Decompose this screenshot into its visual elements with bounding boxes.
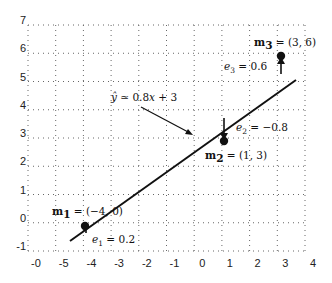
x-tick-label: -2 [142,257,152,269]
m1-label: m1 = (−4, 0) [52,205,123,220]
y-tick-label: 2 [20,155,26,167]
x-tick-label: -3 [114,257,124,269]
line-equation-label: ŷ ≃ 0.8x + 3 [110,91,177,103]
y-tick-label: -1 [16,240,26,252]
y-tick-label: 5 [20,71,26,83]
x-tick-label: 2 [255,257,261,269]
x-tick-label: -4 [87,257,97,269]
y-tick-label: 3 [20,127,26,139]
y-tick-label: 7 [20,14,26,26]
y-tick-label: 4 [20,99,26,111]
e2-label: e2 = −0.8 [236,121,288,136]
y-tick-label: 0 [20,212,26,224]
x-axis-ticks: -0-5-4-3-2-101234 [31,257,316,269]
data-point-m1 [81,222,89,230]
e1-label: e1 = 0.2 [92,233,135,248]
y-tick-label: 6 [20,42,26,54]
m3-label: m3 = (3, 6) [254,36,316,51]
x-tick-label: -1 [170,257,180,269]
data-point-m3 [277,52,285,60]
x-tick-label: 1 [227,257,233,269]
x-tick-label: 0 [199,257,205,269]
x-tick-label: 3 [282,257,288,269]
regression-chart: 76543210-1 -0-5-4-3-2-101234 ŷ ≃ 0.8x + … [0,0,332,283]
data-point-m2 [220,137,228,145]
y-tick-label: 1 [20,184,26,196]
x-tick-label: -5 [59,257,69,269]
e3-label: e3 = 0.6 [224,60,267,75]
m2-label: m2 = (1, 3) [205,149,267,164]
x-tick-label: -0 [31,257,41,269]
y-axis-ticks: 76543210-1 [16,14,26,252]
x-tick-label: 4 [310,257,316,269]
